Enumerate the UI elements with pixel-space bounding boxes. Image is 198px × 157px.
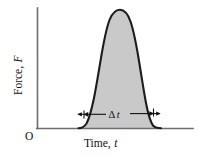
delta-symbol: Δ [109, 109, 116, 120]
delta-t-right-outer-arrowhead-icon [156, 112, 160, 116]
delta-t-left-outer-arrowhead-icon [77, 112, 81, 116]
y-axis-label: Force,F [12, 54, 25, 95]
force-vs-time-figure: Δt Force,F Time,t O [0, 0, 198, 157]
delta-t-label: Δt [109, 109, 121, 120]
origin-label: O [25, 130, 33, 142]
x-axis-label: Time,t [84, 137, 118, 150]
x-axis-label-text: Time, [84, 137, 111, 150]
x-axis-label-symbol: t [114, 137, 118, 149]
y-axis-label-symbol: F [12, 54, 24, 63]
y-axis-label-text: Force, [12, 66, 25, 95]
impulse-curve-chart: Δt Force,F Time,t O [0, 0, 198, 157]
